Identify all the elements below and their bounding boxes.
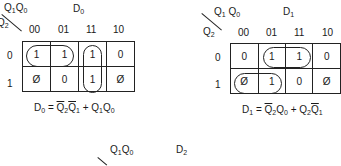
col-header: 01 [58,25,69,35]
kmap-cell: Ø [313,69,341,94]
kmap-d0: Q1Q0 Q2 D0 00 01 11 10 0 1 1 1 1 0 Ø 0 1… [0,0,170,125]
col-header: 00 [238,28,249,38]
kmap-cell: Ø [107,67,135,92]
col-variable-label: Q1Q0 [4,3,27,16]
kmap-cell: 0 [107,42,135,67]
col-header: 11 [294,28,304,38]
map-title: D1 [283,7,294,20]
kmap-cell: 0 [313,44,341,69]
row-header: 1 [215,80,221,90]
equation-d1: D1 = Q2Q0 + Q2Q1 [242,104,323,116]
row-header: 0 [7,51,13,61]
kmap-cell: 0 [51,67,79,92]
col-variable-label: Q1 Q0 [214,7,240,20]
row-header: 1 [7,79,13,89]
group-loop [83,45,102,93]
map-title: D2 [176,145,187,158]
kmap-cell: 0 [285,69,312,94]
col-header: 11 [86,25,96,35]
kmap-corner-divider [97,157,107,165]
map-title: D0 [73,4,84,17]
col-header: 01 [266,28,277,38]
group-loop [26,45,74,67]
row-variable-label: Q2 [203,27,215,40]
kmap-d1: Q1 Q0 Q2 D1 00 01 11 10 0 1 0 1 1 0 Ø 1 … [200,0,341,125]
kmap-d2: Q1Q0 D2 [90,140,240,166]
equation-d0: D0 = Q2Q1 + Q1Q0 [34,102,115,114]
col-variable-label: Q1Q0 [110,145,133,158]
kmap-cell: 0 [231,44,259,69]
col-header: 10 [113,25,124,35]
row-variable-label: Q2 [0,18,9,31]
col-header: 10 [322,28,333,38]
group-loop [234,73,282,94]
row-header: 0 [215,53,221,63]
col-header: 00 [29,25,40,35]
group-loop [263,47,311,68]
kmap-cell: Ø [23,67,51,92]
